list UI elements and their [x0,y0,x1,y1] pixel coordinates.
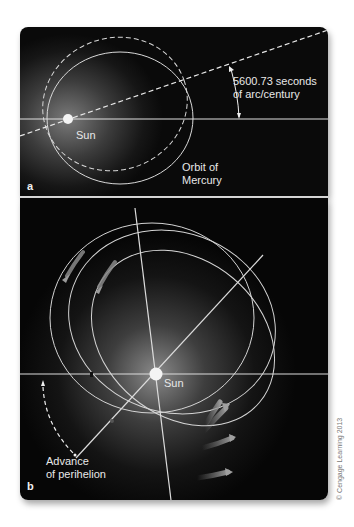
orbit-label-line2: Mercury [182,174,222,186]
panel-b: Sun Advance of perihelion b [20,198,328,500]
angle-label-line2: of arc/century [233,88,300,100]
orbit-1 [50,223,254,413]
mercury-perihelion-figure: Sun 5600.73 seconds of arc/century Orbit… [0,0,354,527]
panel-a-diagram [20,27,328,196]
motion-arrow-5 [202,438,232,448]
advance-label-line1: Advance [46,455,89,467]
sun-icon [150,368,163,381]
arrowhead-icon [229,434,236,442]
advance-arc [43,387,75,455]
motion-arrow-6 [197,472,228,478]
motion-arrow-2 [99,262,115,287]
orbit-2 [43,202,302,443]
mercury-orbit-dashed [24,27,205,190]
arrowhead-up-icon [41,380,45,386]
panel-letter-a: a [27,180,33,192]
panel-a: Sun 5600.73 seconds of arc/century Orbit… [20,27,328,196]
perihelion-marker-2 [110,419,114,423]
orbit-3 [56,214,309,462]
rotated-axis-line-1 [135,208,171,500]
rotated-axis-line-2 [76,255,263,458]
advance-label-line2: of perihelion [46,468,106,480]
perihelion-marker-1 [90,372,93,377]
sun-label-b: Sun [164,377,184,389]
sun-icon [63,114,73,124]
sun-label-a: Sun [76,129,96,141]
arrowhead-down-icon [237,113,241,119]
arrowhead-icon [225,468,233,476]
angle-label-line1: 5600.73 seconds [233,75,317,87]
panel-letter-b: b [27,480,34,492]
copyright-credit: © Cengage Learning 2013 [336,418,343,500]
orbit-label-line1: Orbit of [182,161,218,173]
